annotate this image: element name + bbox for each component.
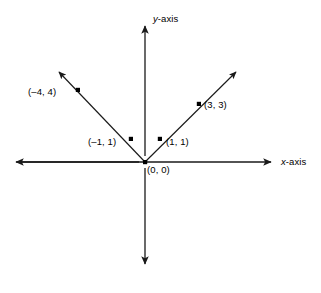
point-marker-3-3 — [197, 102, 201, 106]
y-axis-label-suffix: -axis — [158, 13, 179, 24]
point-label-neg4-4: (–4, 4) — [28, 86, 56, 97]
left-ray — [59, 72, 145, 162]
coordinate-plane-figure: y-axis x-axis (–4, 4) (–1, 1) (0, 0) (1,… — [0, 0, 321, 293]
point-label-3-3: (3, 3) — [204, 99, 227, 110]
plot-canvas — [0, 0, 321, 293]
point-label-neg1-1: (–1, 1) — [88, 136, 116, 147]
x-axis-label-suffix: -axis — [286, 156, 307, 167]
y-axis-label: y-axis — [153, 13, 178, 24]
right-ray — [145, 72, 236, 162]
point-marker-1-1 — [158, 137, 162, 141]
x-axis-label: x-axis — [281, 156, 306, 167]
point-label-1-1: (1, 1) — [166, 136, 189, 147]
point-marker-neg4-4 — [76, 88, 80, 92]
point-marker-neg1-1 — [129, 137, 133, 141]
point-label-0-0: (0, 0) — [147, 164, 170, 175]
